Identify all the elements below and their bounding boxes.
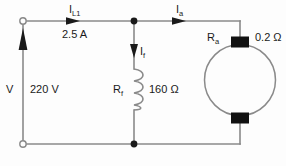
armature-current-arrow-icon (172, 17, 186, 25)
armature-current-label: Ia (176, 3, 184, 18)
line-current-arrow-icon (66, 17, 80, 25)
armature-resistor-value: 0.2 Ω (255, 31, 282, 43)
armature-resistor-label: Ra (207, 31, 220, 46)
line-current-label: IL1 (69, 3, 80, 18)
junction-dot-top (131, 18, 138, 25)
field-resistor-label: Rf (113, 83, 124, 98)
line-current-value: 2.5 A (62, 28, 88, 40)
circuit-diagram: IL1 2.5 A Ia If V 220 V Rf 160 Ω Ra 0.2 … (0, 0, 286, 166)
brush-bottom (231, 113, 249, 124)
supply-symbol-label: V (6, 83, 14, 95)
terminal-top-left (20, 18, 26, 24)
terminal-bottom-left (20, 141, 26, 147)
junction-dot-bottom (131, 141, 138, 148)
field-current-label: If (140, 45, 146, 60)
brush-top (231, 37, 249, 48)
field-resistor-value: 160 Ω (149, 83, 179, 95)
field-winding-coil-icon (134, 69, 143, 110)
circuit-svg: IL1 2.5 A Ia If V 220 V Rf 160 Ω Ra 0.2 … (0, 0, 286, 166)
supply-up-arrow-icon (19, 28, 28, 50)
supply-value-label: 220 V (30, 83, 59, 95)
field-current-arrow-icon (130, 44, 138, 58)
armature-circle (205, 45, 276, 116)
